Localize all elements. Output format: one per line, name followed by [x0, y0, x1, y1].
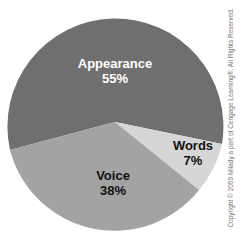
pie-chart [0, 0, 240, 237]
label-words: Words7% [168, 138, 218, 168]
copyright-notice: Copyright © 2009 Milady a part of Cengag… [227, 8, 234, 227]
label-appearance: Appearance55% [70, 56, 160, 86]
label-voice: Voice38% [78, 168, 148, 198]
